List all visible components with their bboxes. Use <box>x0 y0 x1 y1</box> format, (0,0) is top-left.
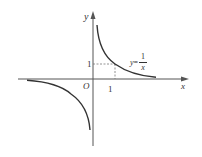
function-label: y = 1 x <box>130 53 147 72</box>
function-label-equals: = <box>134 59 139 67</box>
y-axis-arrow-icon <box>91 11 96 19</box>
origin-label: O <box>83 82 90 91</box>
x-tick-label-1: 1 <box>108 85 113 94</box>
curve-branch-first-quadrant <box>97 25 156 77</box>
hyperbola-diagram <box>0 0 202 157</box>
fraction-denominator: x <box>141 63 145 72</box>
y-axis-label: y <box>84 12 88 22</box>
function-fraction: 1 x <box>139 53 147 72</box>
y-tick-label-1: 1 <box>87 60 92 69</box>
x-axis-label: x <box>181 82 185 91</box>
fraction-numerator: 1 <box>141 53 145 62</box>
curve-branch-third-quadrant <box>27 80 90 130</box>
